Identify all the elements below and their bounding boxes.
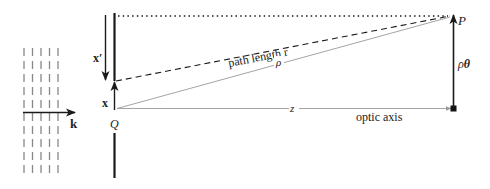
source-point-label: Q (110, 117, 119, 131)
optic-axis-label: optic axis (356, 110, 403, 124)
x-label: x (102, 96, 108, 110)
z-label: z (289, 102, 295, 114)
observation-point-label: P (457, 13, 466, 28)
rho-theta-label: ρθ (457, 57, 471, 71)
wave-vector-label: k (70, 116, 78, 131)
x-prime-label: x′ (93, 51, 102, 65)
rho-label: ρ (275, 56, 281, 68)
diffraction-diagram: k x′ x Q path length r ρ z optic axis ρθ… (0, 0, 490, 189)
